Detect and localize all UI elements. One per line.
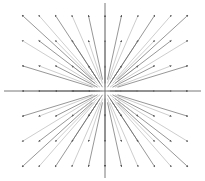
vector-arrow (22, 15, 93, 80)
vector-arrow (39, 66, 95, 88)
vector-field-plot (0, 0, 205, 181)
vector-arrow (118, 40, 189, 83)
vector-arrow (118, 66, 189, 88)
vector-arrow (22, 102, 93, 166)
vector-arrow (22, 99, 93, 142)
vector-arrow (115, 15, 171, 80)
vector-arrow (115, 66, 171, 88)
vector-arrow (115, 102, 171, 166)
vector-arrow (118, 102, 189, 166)
vector-arrow (22, 40, 93, 83)
vector-arrow (118, 99, 189, 142)
vector-arrow (39, 95, 95, 117)
vector-arrow (118, 95, 189, 117)
vector-arrow (22, 95, 93, 117)
vector-arrow (22, 66, 93, 88)
vector-arrow (39, 15, 95, 80)
vector-arrow (118, 15, 189, 80)
vector-arrow (115, 95, 171, 117)
vector-arrow (39, 102, 95, 166)
